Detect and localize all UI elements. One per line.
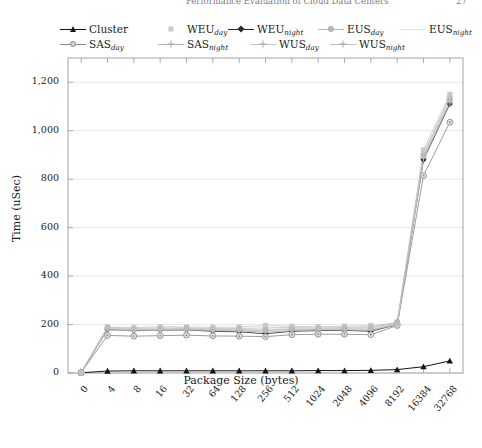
circle-marker-center-icon [212,335,214,337]
running-header-title: Performance Evaluation of Cloud Data Cen… [186,0,389,6]
legend-label-subscript: day [214,28,227,37]
legend-row-2: SASdaySASnightWUSdayWUSnight [0,37,482,52]
legend-label: WUSnight [359,39,405,51]
legend-label-base: SAS [187,38,209,50]
legend-swatch-eus-night [400,24,426,35]
legend-plus-marker-icon [340,41,347,48]
running-header-page-number: 27 [456,0,467,6]
legend-label-base: WEU [187,23,214,35]
legend-label-subscript: night [386,43,405,52]
legend-item-sas-day: SASday [60,37,124,52]
plot-area: Time (uSec) Package Size (bytes) 0200400… [0,52,482,448]
legend-label-subscript: night [284,28,303,37]
legend-square-marker-icon [169,27,174,32]
legend-label-base: EUS [347,23,371,35]
legend-label-base: SAS [89,38,111,50]
y-axis-tick-label: 0 [0,366,59,377]
legend-label-base: WUS [279,38,306,50]
triangle-marker-icon [447,358,453,364]
legend-label-base: WEU [257,23,284,35]
data-point-sas_day [105,333,111,339]
legend-swatch-cluster [60,24,86,35]
legend-label: EUSday [347,24,384,36]
circle-marker-center-icon [291,334,293,336]
circle-marker-center-icon [133,335,135,337]
y-axis-tick-label: 1,000 [0,124,59,135]
legend-swatch-sas-day [60,39,86,50]
legend-label: EUSnight [429,24,472,36]
legend-label: SASnight [187,39,228,51]
legend-label-subscript: day [111,43,124,52]
legend-item-sas-night: SASnight [158,37,228,52]
legend-item-wus-day: WUSday [250,37,319,52]
legend-row-1: ClusterWEUdayWEUnightEUSdayEUSnight [0,22,482,37]
running-header: Performance Evaluation of Cloud Data Cen… [0,0,482,8]
circle-marker-center-icon [107,334,109,336]
circle-marker-center-icon [265,336,267,338]
legend-item-weu-day: WEUday [158,22,227,37]
legend-diamond-marker-icon [237,25,244,32]
y-axis-tick-label: 800 [0,172,59,183]
legend-item-wus-night: WUSnight [330,37,405,52]
legend-label-subscript: day [371,28,384,37]
legend-circle-marker-icon [70,41,76,47]
circle-marker-center-icon [423,175,425,177]
legend-label-base: WUS [359,38,386,50]
figure-page: Performance Evaluation of Cloud Data Cen… [0,0,482,448]
circle-marker-center-icon [159,335,161,337]
data-point-cluster [447,358,453,364]
legend-dot-marker-icon [328,26,334,32]
legend-plus-marker-icon [168,41,175,48]
legend-triangle-marker-icon [70,26,76,32]
circle-marker-center-icon [317,333,319,335]
legend-line-icon [400,29,426,30]
circle-marker-center-icon [449,121,451,123]
legend-label-subscript: night [453,28,472,37]
legend-item-weu-night: WEUnight [228,22,303,37]
legend-plus-marker-icon [260,41,267,48]
legend-label: WEUnight [257,24,303,36]
legend-label-base: EUS [429,23,453,35]
legend-swatch-sas-night [158,39,184,50]
legend-label-subscript: night [209,43,228,52]
legend-label: Cluster [89,24,128,35]
y-axis-label: Time (uSec) [10,149,23,269]
legend-item-eus-night: EUSnight [400,22,472,37]
circle-marker-center-icon [186,334,188,336]
circle-marker-center-icon [370,334,372,336]
chart-legend: ClusterWEUdayWEUnightEUSdayEUSnight SASd… [0,22,482,54]
legend-label-subscript: day [306,43,319,52]
legend-swatch-weu-day [158,24,184,35]
legend-label: WUSday [279,39,319,51]
data-point-sas_day [421,173,427,179]
y-axis-tick-label: 600 [0,221,59,232]
legend-swatch-wus-night [330,39,356,50]
y-axis-tick-label: 200 [0,318,59,329]
legend-item-cluster: Cluster [60,22,128,37]
legend-swatch-weu-night [228,24,254,35]
y-axis-tick-label: 1,200 [0,75,59,86]
legend-label: WEUday [187,24,227,36]
legend-label: SASday [89,39,124,51]
legend-item-eus-day: EUSday [318,22,384,37]
circle-marker-center-icon [344,333,346,335]
legend-label-base: Cluster [89,23,128,35]
y-axis-tick-label: 400 [0,269,59,280]
data-point-sas_day [447,119,453,125]
circle-marker-center-icon [238,335,240,337]
legend-swatch-wus-day [250,39,276,50]
legend-swatch-eus-day [318,24,344,35]
